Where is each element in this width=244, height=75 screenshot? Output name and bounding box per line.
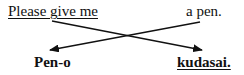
- crossing-arrows: [0, 0, 244, 75]
